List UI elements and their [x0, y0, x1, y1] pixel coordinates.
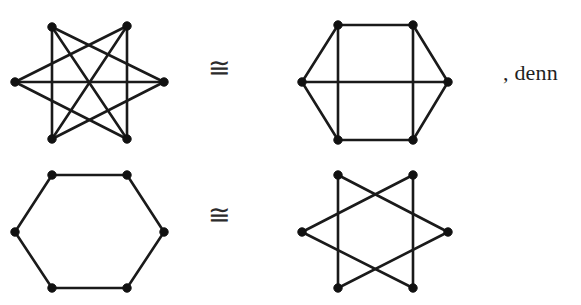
graph-vertex	[123, 171, 131, 179]
graph-vertex	[298, 78, 306, 86]
graph-vertex	[444, 78, 452, 86]
graph-edge	[413, 25, 448, 82]
graph-vertices	[298, 171, 452, 292]
graph-edge	[302, 232, 413, 288]
graph-edge	[302, 82, 338, 140]
congruence-symbol-bottom: ≅	[208, 202, 231, 229]
graph-figure-bottom-right	[302, 175, 448, 288]
graph-vertex	[123, 135, 131, 143]
graph-vertex	[334, 21, 342, 29]
graph-vertex	[298, 228, 306, 236]
graph-vertex	[48, 284, 56, 292]
graph-vertex	[334, 171, 342, 179]
graph-vertex	[48, 171, 56, 179]
graph-edge	[338, 175, 448, 232]
graph-figure-top-left	[15, 25, 165, 140]
graph-edge	[15, 175, 52, 232]
graph-vertex	[409, 136, 417, 144]
graph-vertex	[123, 284, 131, 292]
graph-vertex	[409, 171, 417, 179]
graph-vertices	[11, 171, 168, 292]
graph-vertex	[48, 23, 56, 31]
graph-vertex	[11, 78, 19, 86]
graph-vertex	[11, 228, 19, 236]
graph-edges	[302, 25, 448, 140]
graph-vertex	[48, 135, 56, 143]
graph-edge	[15, 26, 127, 82]
graph-edge	[338, 232, 448, 288]
graph-vertex	[409, 284, 417, 292]
star-polygon-hexagon-graph	[296, 169, 454, 294]
graph-edges	[302, 175, 448, 288]
congruence-symbol-top: ≅	[208, 55, 231, 82]
graph-edge	[15, 232, 52, 288]
graph-edge	[413, 82, 448, 140]
graph-edges	[15, 26, 164, 139]
graph-vertex	[409, 21, 417, 29]
graph-edge	[302, 25, 338, 82]
graph-edge	[127, 175, 164, 232]
graph-vertex	[160, 78, 168, 86]
graph-edge	[302, 175, 413, 232]
graph-vertex	[444, 228, 452, 236]
plain-hexagon-cycle-graph	[9, 169, 170, 294]
graph-figure-top-right	[302, 25, 448, 140]
trailing-text: , denn	[503, 60, 558, 86]
graph-vertex	[160, 228, 168, 236]
hexagon-with-chords-graph	[296, 19, 454, 146]
graph-vertex	[334, 136, 342, 144]
star-hexagon-graph-k33	[9, 19, 171, 146]
figure-page: ≅ ≅ , denn	[0, 0, 581, 305]
graph-edge	[127, 232, 164, 288]
graph-edges	[15, 175, 164, 288]
graph-vertex	[123, 22, 131, 30]
graph-figure-bottom-left	[15, 175, 164, 288]
graph-vertex	[334, 284, 342, 292]
